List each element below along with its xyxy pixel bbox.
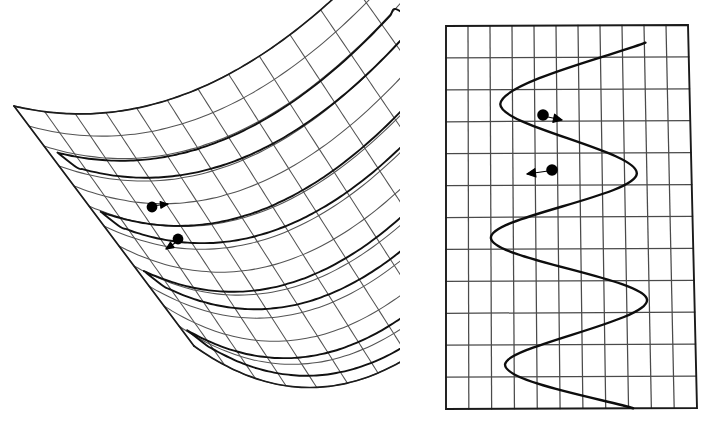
surface-mesh-cross-sections — [14, 0, 400, 387]
surface-diagram — [0, 0, 400, 435]
chart-gridlines — [446, 25, 696, 409]
surface-panel — [0, 0, 400, 435]
surface-parabola-curves — [58, 9, 400, 376]
surface-mesh-generators — [14, 0, 400, 387]
surface-boundary — [14, 0, 400, 387]
grid-chart — [400, 0, 714, 435]
grid-panel — [400, 0, 714, 435]
figure-root — [0, 0, 714, 435]
